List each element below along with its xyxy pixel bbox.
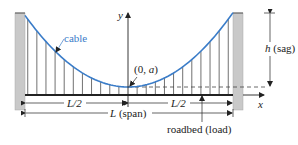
left-tower (15, 13, 25, 110)
right-tower (233, 13, 243, 110)
x-axis-label: x (257, 98, 263, 110)
sag-label: h (sag) (265, 42, 296, 55)
cable-label: cable (64, 32, 87, 44)
span-label: L (span) (109, 107, 147, 120)
vertex-label: (0, a) (134, 63, 158, 76)
cable-leader (56, 39, 64, 52)
vertex-leader (130, 77, 137, 86)
half-span-left-label: L/2 (66, 97, 82, 109)
span-label-L: L (109, 107, 116, 119)
suspension-bridge-diagram: y x cable (0, a) h (sag) L/2 L/2 L (span… (0, 0, 298, 145)
cable-curve (25, 13, 233, 87)
roadbed-label: roadbed (load) (167, 123, 232, 136)
y-axis-label: y (117, 9, 123, 21)
half-span-right-label: L/2 (170, 97, 186, 109)
sag-label-word: (sag) (271, 42, 296, 55)
span-label-word: (span) (116, 107, 147, 120)
vertex-label-a: a (149, 63, 155, 75)
